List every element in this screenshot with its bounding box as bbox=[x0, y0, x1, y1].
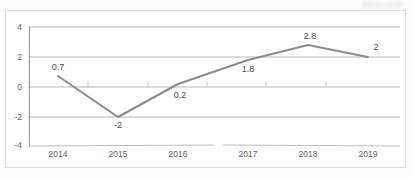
x-tick-label-2014: 2014 bbox=[35, 149, 81, 159]
x-tick-label-2016: 2016 bbox=[155, 149, 201, 159]
gridline-minus-4-right bbox=[223, 145, 400, 146]
y-tick-label-2: 2 bbox=[0, 52, 22, 62]
data-label-2019: 2 bbox=[360, 42, 392, 52]
y-tick-label-0: 0 bbox=[0, 82, 22, 92]
y-tick-label-minus-4: -4 bbox=[0, 140, 22, 150]
x-tick-label-2017: 2017 bbox=[225, 149, 271, 159]
chart-screenshot: 4 2 0 -2 -4 2014 2015 2016 2017 2018 201… bbox=[0, 0, 413, 178]
y-tick-label-4: 4 bbox=[0, 22, 22, 32]
x-tick-label-2018: 2018 bbox=[285, 149, 331, 159]
data-label-2014: 0.7 bbox=[42, 62, 74, 72]
x-tick-label-2015: 2015 bbox=[95, 149, 141, 159]
data-label-2018: 2.8 bbox=[294, 31, 326, 41]
data-series-line bbox=[58, 45, 368, 117]
x-tick-label-2019: 2019 bbox=[345, 149, 391, 159]
y-tick-label-minus-2: -2 bbox=[0, 112, 22, 122]
gridline-minus-4-left bbox=[29, 145, 214, 146]
data-label-2017: 1.8 bbox=[232, 64, 264, 74]
data-label-2016: 0.2 bbox=[164, 90, 196, 100]
data-label-2015: -2 bbox=[102, 120, 134, 130]
